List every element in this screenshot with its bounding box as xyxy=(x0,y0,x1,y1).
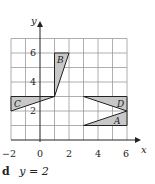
label-c: C xyxy=(14,99,21,109)
caption-equation: y = 2 xyxy=(19,165,48,178)
label-a: A xyxy=(113,116,121,126)
svg-text:2: 2 xyxy=(30,105,36,116)
y-tick-labels: 2 4 6 xyxy=(30,47,36,116)
label-b: B xyxy=(56,55,64,65)
x-axis-arrow-icon xyxy=(135,137,141,143)
svg-text:2: 2 xyxy=(66,148,72,159)
svg-text:6: 6 xyxy=(123,148,129,159)
x-axis-label: x xyxy=(141,144,147,155)
svg-text:0: 0 xyxy=(37,148,43,159)
caption: d y = 2 xyxy=(2,165,49,178)
svg-text:4: 4 xyxy=(30,76,36,87)
y-axis-arrow-icon xyxy=(37,21,43,27)
svg-text:−2: −2 xyxy=(2,148,16,159)
label-d: D xyxy=(116,99,124,109)
svg-text:4: 4 xyxy=(95,148,101,159)
svg-text:6: 6 xyxy=(30,47,36,58)
caption-part-label: d xyxy=(2,165,10,178)
coordinate-grid-figure: x y −2 0 2 4 6 2 4 6 A B C D xyxy=(0,0,155,184)
x-tick-labels: −2 0 2 4 6 xyxy=(2,148,129,159)
y-axis-label: y xyxy=(30,15,37,26)
